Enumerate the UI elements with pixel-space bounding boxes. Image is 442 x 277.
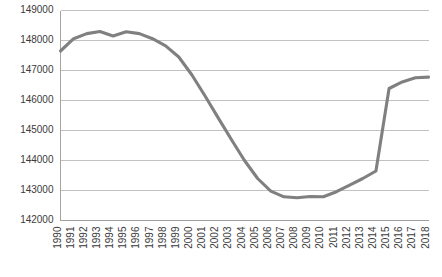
- x-tick-label: 2012: [341, 226, 352, 249]
- x-tick-label: 2014: [367, 226, 378, 249]
- x-tick-label: 2010: [314, 226, 325, 249]
- x-tick-label: 2016: [393, 226, 404, 249]
- x-tick-label: 2017: [406, 226, 417, 249]
- y-tick-label: 148000: [20, 34, 54, 45]
- y-tick-label: 149000: [20, 4, 54, 15]
- x-tick-label: 2009: [301, 226, 312, 249]
- x-tick-label: 2004: [236, 226, 247, 249]
- x-tick-label: 2007: [275, 226, 286, 249]
- x-tick-label: 1994: [104, 226, 115, 249]
- x-tick-label: 1998: [157, 226, 168, 249]
- x-tick-label: 1992: [78, 226, 89, 249]
- x-tick-label: 1995: [117, 226, 128, 249]
- x-tick-label: 1993: [91, 226, 102, 249]
- x-tick-label: 1999: [170, 226, 181, 249]
- x-tick-label: 2006: [262, 226, 273, 249]
- y-tick-label: 143000: [20, 184, 54, 195]
- y-tick-label: 147000: [20, 64, 54, 75]
- x-tick-label: 2015: [380, 226, 391, 249]
- x-tick-label: 1991: [65, 226, 76, 249]
- axis-group: [61, 11, 429, 221]
- x-tick-label: 1990: [52, 226, 63, 249]
- x-tick-label: 2000: [183, 226, 194, 249]
- x-tick-label: 2001: [196, 226, 207, 249]
- line-chart-figure: 1490001480001470001460001450001440001430…: [0, 0, 442, 277]
- y-axis-labels: 1490001480001470001460001450001440001430…: [20, 4, 54, 225]
- y-tick-label: 146000: [20, 94, 54, 105]
- x-tick-label: 2005: [249, 226, 260, 249]
- x-tick-label: 1997: [144, 226, 155, 249]
- x-tick-label: 1996: [130, 226, 141, 249]
- x-tick-label: 2003: [222, 226, 233, 249]
- x-axis-labels: 1990199119921993199419951996199719981999…: [52, 226, 431, 249]
- y-tick-label: 142000: [20, 214, 54, 225]
- x-tick-label: 2018: [420, 226, 431, 249]
- x-tick-label: 2011: [328, 226, 339, 248]
- x-tick-label: 2013: [354, 226, 365, 249]
- y-tick-label: 144000: [20, 154, 54, 165]
- data-series-line: [61, 32, 429, 198]
- x-tick-label: 2002: [209, 226, 220, 249]
- y-tick-label: 145000: [20, 124, 54, 135]
- chart-canvas: 1490001480001470001460001450001440001430…: [0, 0, 442, 277]
- gridlines-group: [61, 11, 429, 221]
- x-tick-label: 2008: [288, 226, 299, 249]
